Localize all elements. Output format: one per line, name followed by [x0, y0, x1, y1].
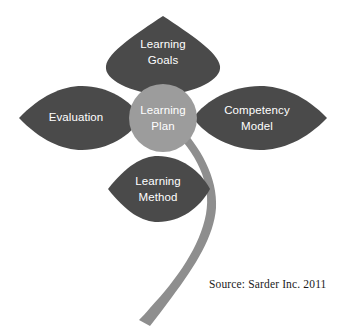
petal-label-line: Goals — [148, 54, 179, 66]
petal-shape-learning-method[interactable] — [108, 156, 210, 222]
petal-label-line: Evaluation — [49, 111, 104, 123]
petal-label-line: Model — [241, 120, 273, 132]
source-attribution: Source: Sarder Inc. 2011 — [209, 278, 327, 290]
center-circle-learning-plan[interactable] — [129, 84, 197, 152]
center-label-line: Plan — [151, 120, 174, 132]
petal-label-line: Learning — [140, 38, 186, 50]
learning-plan-diagram: Learning Goals Evaluation Competency Mod… — [0, 0, 347, 330]
petal-label-line: Method — [139, 191, 178, 203]
center-label-line: Learning — [140, 104, 186, 116]
flower-stem — [139, 124, 216, 326]
petal-label-line: Competency — [224, 104, 290, 116]
petal-label-line: Learning — [135, 175, 181, 187]
petal-label-evaluation: Evaluation — [49, 111, 104, 123]
petal-shape-competency-model[interactable] — [193, 86, 327, 150]
